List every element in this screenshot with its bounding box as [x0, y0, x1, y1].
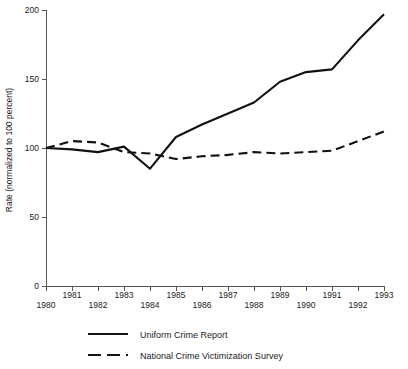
x-axis-tick-label: 1993	[375, 290, 394, 300]
y-axis: 050100150200	[25, 5, 46, 291]
x-axis-tick-label: 1992	[349, 300, 368, 310]
x-axis-tick-label: 1987	[219, 290, 238, 300]
x-axis-tick-label: 1984	[141, 300, 160, 310]
y-axis-tick-label: 150	[25, 74, 39, 84]
x-axis-tick-label: 1982	[89, 300, 108, 310]
x-axis-tick-label: 1988	[245, 300, 264, 310]
y-axis-title: Rate (normalized to 100 percent)	[4, 88, 14, 212]
x-axis-tick-label: 1991	[323, 290, 342, 300]
x-axis-tick-label: 1990	[297, 300, 316, 310]
x-axis-tick-label: 1980	[37, 300, 56, 310]
y-axis-tick-label: 50	[30, 212, 40, 222]
x-axis-tick-label: 1983	[115, 290, 134, 300]
legend-label-1: Uniform Crime Report	[140, 330, 228, 340]
legend-label-2: National Crime Victimization Survey	[140, 351, 283, 361]
x-axis: 1980198119821983198419851986198719881989…	[37, 286, 394, 310]
chart-legend: Uniform Crime ReportNational Crime Victi…	[88, 330, 283, 361]
x-axis-tick-label: 1985	[167, 290, 186, 300]
chart-figure: 050100150200 198019811982198319841985198…	[0, 0, 408, 369]
chart-series-layer	[46, 14, 384, 169]
y-axis-tick-label: 100	[25, 143, 39, 153]
series-line-1	[46, 14, 384, 169]
x-axis-tick-label: 1986	[193, 300, 212, 310]
x-axis-tick-label: 1989	[271, 290, 290, 300]
x-axis-tick-label: 1981	[63, 290, 82, 300]
series-line-2	[46, 131, 384, 159]
line-chart: 050100150200 198019811982198319841985198…	[0, 0, 408, 369]
y-axis-tick-label: 0	[34, 281, 39, 291]
y-axis-tick-label: 200	[25, 5, 39, 15]
